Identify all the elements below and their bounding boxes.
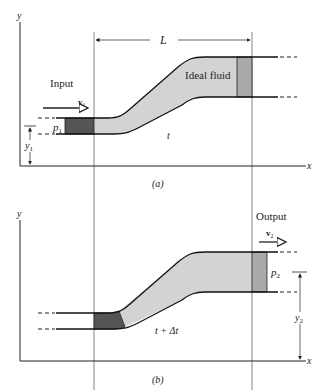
caption-b: (b) (152, 374, 164, 386)
y-axis-label-b: y (16, 208, 22, 219)
output-fluid-element-a (237, 57, 252, 97)
pressure-p2-label: p2 (270, 266, 281, 280)
input-fluid-element-b (94, 311, 125, 329)
x-axis-label-b: x (306, 355, 312, 366)
fluid-flow-diagram: y x L Input v1 p1 y1 Ideal fluid (0, 0, 331, 390)
fluid-body-b (119, 252, 252, 327)
input-label: Input (50, 77, 73, 89)
length-label: L (159, 33, 167, 47)
panel-a: y x L Input v1 p1 y1 Ideal fluid (16, 10, 312, 190)
panel-b: y x Output v2 p2 y2 t + Δt (b) (16, 208, 312, 386)
output-fluid-element-b (252, 252, 267, 292)
height-y2-label: y2 (294, 312, 303, 325)
velocity-v1-label: v1 (78, 97, 86, 108)
time-t-label: t (167, 130, 170, 141)
pressure-p1-label: p1 (52, 121, 63, 135)
velocity-v2-label: v2 (266, 228, 274, 239)
x-axis-label-a: x (306, 160, 312, 171)
caption-a: (a) (152, 178, 164, 190)
input-fluid-element (65, 118, 94, 134)
output-label: Output (256, 210, 287, 222)
time-t-dt-label: t + Δt (155, 325, 178, 336)
y-axis-label-a: y (16, 10, 22, 21)
ideal-fluid-label: Ideal fluid (185, 69, 231, 81)
height-y1-label: y1 (24, 140, 33, 153)
